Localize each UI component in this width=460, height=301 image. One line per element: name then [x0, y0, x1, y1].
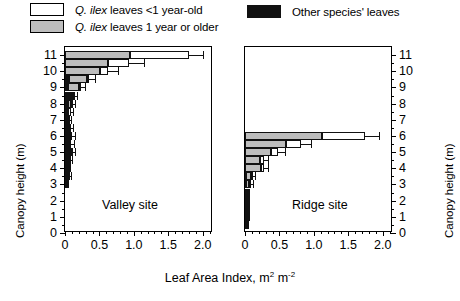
y-tick-label: 10	[399, 65, 413, 78]
x-axis-label-sup2: -2	[288, 270, 295, 279]
error-bar-cap	[72, 156, 73, 164]
bar-segment	[245, 164, 261, 172]
x-tick-major	[279, 231, 280, 236]
y-tick-major	[391, 120, 396, 121]
x-tick-minor	[161, 231, 162, 234]
x-tick-minor	[210, 231, 211, 234]
y-tick-label: 4	[50, 162, 57, 175]
error-bar	[365, 136, 379, 137]
bar-segment	[69, 75, 87, 83]
x-tick-label: 2.0	[194, 239, 211, 252]
bar-group	[245, 132, 393, 140]
panel-valley: 0123456789101100.51.01.52.0 Valley site	[64, 46, 212, 232]
error-bar-cap	[379, 132, 380, 140]
error-bar-cap	[74, 140, 75, 148]
y-tick-label: 4	[399, 162, 406, 175]
error-bar	[108, 71, 118, 72]
y-tick-major	[391, 87, 396, 88]
x-tick-minor	[293, 231, 294, 234]
y-tick-label: 5	[399, 146, 406, 159]
y-tick-label: 2	[399, 195, 406, 208]
x-tick-minor	[127, 231, 128, 234]
y-tick-label: 9	[50, 81, 57, 94]
y-tick-minor	[391, 96, 394, 97]
bar-group	[65, 51, 213, 59]
error-bar-cap	[249, 189, 250, 197]
bar-group	[245, 189, 393, 197]
y-tick-major	[60, 201, 65, 202]
legend-label-old: Q. ilex leaves 1 year or older	[75, 21, 218, 33]
legend-item-young: Q. ilex leaves <1 year-old	[30, 3, 203, 16]
x-tick-label: 2.0	[374, 239, 391, 252]
x-tick-minor	[273, 231, 274, 234]
y-tick-label: 0	[50, 227, 57, 240]
legend-swatch-grey-icon	[30, 20, 64, 33]
error-bar	[129, 63, 144, 64]
bar-group	[65, 164, 213, 172]
x-tick-major	[99, 231, 100, 236]
bar-group	[245, 164, 393, 172]
bar-group	[245, 140, 393, 148]
x-tick-minor	[321, 231, 322, 234]
y-tick-minor	[62, 225, 65, 226]
bar-segment	[245, 140, 286, 148]
figure-area: Canopy height (m) Canopy height (m) Leaf…	[0, 38, 460, 301]
error-bar-cap	[77, 92, 78, 100]
x-tick-minor	[113, 231, 114, 234]
x-tick-minor	[196, 231, 197, 234]
bar-group	[65, 100, 213, 108]
panel-ridge: 0123456789101100.51.01.52.0 Ridge site	[244, 46, 392, 232]
y-tick-minor	[62, 209, 65, 210]
x-tick-major	[203, 231, 204, 236]
site-label-valley: Valley site	[102, 198, 158, 212]
x-tick-minor	[259, 231, 260, 234]
y-tick-major	[391, 233, 396, 234]
bar-group	[65, 108, 213, 116]
bar-group	[65, 67, 213, 75]
x-axis-label: Leaf Area Index, m2 m-2	[0, 270, 460, 285]
legend-swatch-black-icon	[247, 5, 281, 18]
error-bar-cap	[75, 148, 76, 156]
bar-group	[65, 140, 213, 148]
error-bar-cap	[249, 213, 250, 221]
x-tick-minor	[175, 231, 176, 234]
bar-group	[245, 172, 393, 180]
bar-group	[65, 116, 213, 124]
y-tick-label: 10	[43, 65, 57, 78]
bar-group	[65, 92, 213, 100]
x-tick-minor	[72, 231, 73, 234]
y-tick-label: 6	[50, 130, 57, 143]
x-tick-minor	[106, 231, 107, 234]
y-tick-major	[391, 104, 396, 105]
x-tick-minor	[334, 231, 335, 234]
bar-segment	[286, 140, 301, 148]
x-tick-minor	[376, 231, 377, 234]
x-tick-minor	[182, 231, 183, 234]
bar-segment	[322, 132, 365, 140]
legend-text-young: leaves <1 year-old	[107, 4, 203, 16]
error-bar-cap	[203, 51, 204, 59]
x-tick-minor	[154, 231, 155, 234]
x-tick-minor	[141, 231, 142, 234]
x-tick-minor	[307, 231, 308, 234]
legend-species-name: Q. ilex	[75, 4, 107, 16]
x-tick-major	[383, 231, 384, 236]
x-tick-minor	[300, 231, 301, 234]
error-bar-cap	[255, 172, 256, 180]
x-axis-label-mid: m	[274, 271, 288, 285]
x-tick-minor	[390, 231, 391, 234]
y-tick-label: 9	[399, 81, 406, 94]
x-tick-minor	[328, 231, 329, 234]
x-tick-minor	[286, 231, 287, 234]
legend-item-other: Other species' leaves	[247, 5, 399, 18]
legend-label-other: Other species' leaves	[292, 6, 399, 18]
bar-group	[65, 75, 213, 83]
x-axis-label-main: Leaf Area Index, m	[165, 271, 270, 285]
bar-group	[245, 156, 393, 164]
y-tick-label: 3	[399, 178, 406, 191]
x-tick-minor	[266, 231, 267, 234]
bar-group	[65, 132, 213, 140]
y-tick-label: 11	[399, 49, 412, 62]
error-bar-cap	[285, 148, 286, 156]
error-bar-cap	[73, 124, 74, 132]
